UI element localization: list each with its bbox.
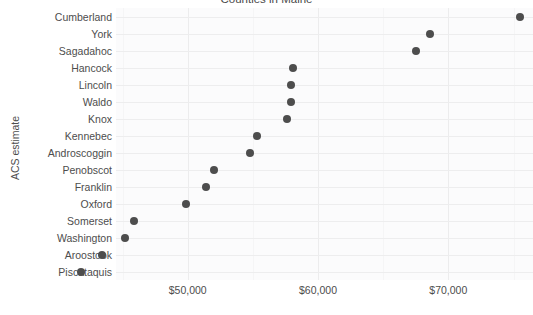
chart-title: Counties in Maine xyxy=(0,0,533,5)
y-axis-tick-labels: CumberlandYorkSagadahocHancockLincolnWal… xyxy=(0,8,112,280)
gridline-major-y xyxy=(116,17,533,18)
gridline-major-y xyxy=(116,102,533,103)
y-axis-tick-label: Washington xyxy=(4,232,112,243)
data-point xyxy=(210,166,218,174)
gridline-major-y xyxy=(116,272,533,273)
data-point xyxy=(77,268,85,276)
y-axis-tick-label: Lincoln xyxy=(4,79,112,90)
y-axis-tick-label: Androscoggin xyxy=(4,147,112,158)
y-axis-tick-label: Sagadahoc xyxy=(4,45,112,56)
data-point xyxy=(246,149,254,157)
chart-container: Counties in Maine ACS estimate Cumberlan… xyxy=(0,0,533,315)
data-point xyxy=(516,13,524,21)
gridline-major-y xyxy=(116,34,533,35)
x-axis-tick-labels: $50,000$60,000$70,000 xyxy=(116,284,533,304)
data-point xyxy=(182,200,190,208)
gridline-major-x xyxy=(448,8,449,280)
data-point xyxy=(202,183,210,191)
y-axis-tick-label: Penobscot xyxy=(4,164,112,175)
y-axis-tick-label: Hancock xyxy=(4,62,112,73)
gridline-major-y xyxy=(116,153,533,154)
gridline-major-y xyxy=(116,221,533,222)
plot-panel xyxy=(116,8,533,280)
gridline-major-x xyxy=(188,8,189,280)
data-point xyxy=(130,217,138,225)
gridline-major-y xyxy=(116,187,533,188)
gridline-major-y xyxy=(116,238,533,239)
x-axis-tick-label: $50,000 xyxy=(169,284,207,296)
data-point xyxy=(283,115,291,123)
y-axis-tick-label: Knox xyxy=(4,113,112,124)
gridline-major-y xyxy=(116,255,533,256)
y-axis-tick-label: Aroostook xyxy=(4,249,112,260)
gridline-major-x xyxy=(318,8,319,280)
y-axis-tick-label: York xyxy=(4,28,112,39)
y-axis-tick-label: Piscataquis xyxy=(4,266,112,277)
y-axis-tick-label: Oxford xyxy=(4,198,112,209)
data-point xyxy=(412,47,420,55)
gridline-major-y xyxy=(116,204,533,205)
gridline-major-y xyxy=(116,85,533,86)
y-axis-tick-label: Kennebec xyxy=(4,130,112,141)
gridline-minor-x xyxy=(514,8,515,280)
x-axis-tick-label: $60,000 xyxy=(299,284,337,296)
gridline-minor-x xyxy=(383,8,384,280)
y-axis-tick-label: Somerset xyxy=(4,215,112,226)
data-point xyxy=(287,98,295,106)
data-point xyxy=(121,234,129,242)
x-axis-tick-label: $70,000 xyxy=(429,284,467,296)
gridline-minor-x xyxy=(253,8,254,280)
y-axis-tick-label: Cumberland xyxy=(4,11,112,22)
gridline-major-y xyxy=(116,51,533,52)
gridline-major-y xyxy=(116,119,533,120)
data-point xyxy=(98,251,106,259)
gridline-major-y xyxy=(116,68,533,69)
y-axis-tick-label: Waldo xyxy=(4,96,112,107)
gridline-major-y xyxy=(116,170,533,171)
gridline-major-y xyxy=(116,136,533,137)
data-point xyxy=(253,132,261,140)
data-point xyxy=(289,64,297,72)
data-point xyxy=(287,81,295,89)
y-axis-tick-label: Franklin xyxy=(4,181,112,192)
data-point xyxy=(426,30,434,38)
